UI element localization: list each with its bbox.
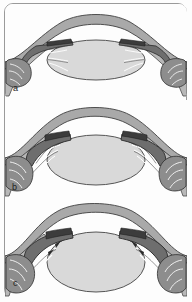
ciliary-muscle-left <box>6 59 31 88</box>
ciliary-muscle-right <box>161 59 186 88</box>
panel-c-accommodated <box>0 200 192 301</box>
panel-label-b: b <box>12 183 17 192</box>
panel-a-relaxed <box>0 0 192 101</box>
panel-label-a: a <box>13 84 18 93</box>
panel-label-c: c <box>13 279 18 288</box>
panel-b-intermediate <box>0 100 192 201</box>
anatomy-figure: a b c <box>0 0 192 302</box>
